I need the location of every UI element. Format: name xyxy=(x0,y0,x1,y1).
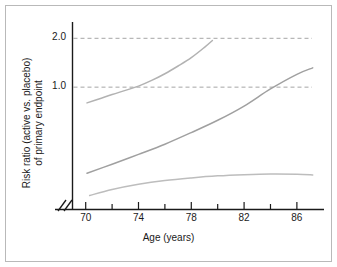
axes xyxy=(55,22,324,211)
curve-lower-ci xyxy=(90,174,313,196)
x-tick-label-82: 82 xyxy=(229,212,259,223)
gridlines xyxy=(74,38,313,87)
y-axis-title-line2: of primary endpoint xyxy=(33,33,45,213)
y-axis-title: Risk ratio (active vs. placebo) of prima… xyxy=(21,33,45,213)
x-axis-title: Age (years) xyxy=(0,232,337,243)
x-tick-label-86: 86 xyxy=(282,212,312,223)
data-curves xyxy=(87,40,313,195)
curve-point-estimate xyxy=(87,68,313,173)
x-tick-label-78: 78 xyxy=(176,212,206,223)
curve-upper-ci xyxy=(87,40,212,102)
x-axis-ticks xyxy=(86,202,297,209)
y-axis-title-line1: Risk ratio (active vs. placebo) xyxy=(21,33,33,213)
figure-container: 2.0 1.0 7074788286 Age (years) Risk rati… xyxy=(0,0,337,267)
x-tick-label-70: 70 xyxy=(71,212,101,223)
x-tick-label-74: 74 xyxy=(123,212,153,223)
